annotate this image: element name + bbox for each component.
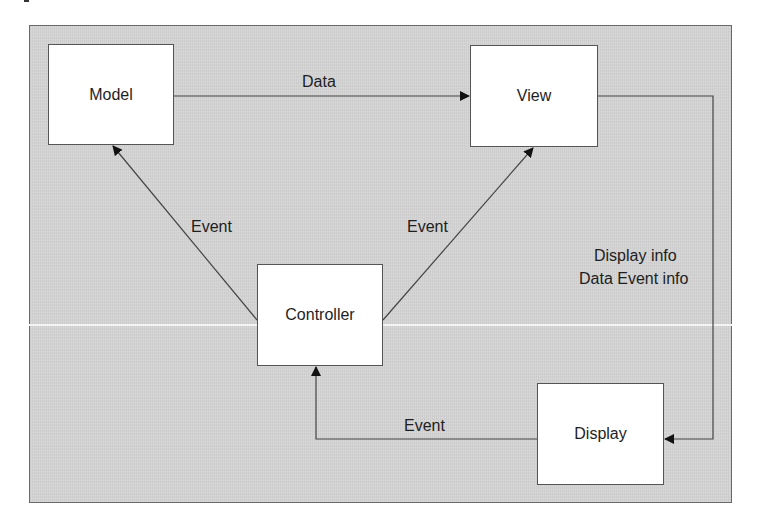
edge-label-data-event-info: Data Event info: [579, 267, 688, 290]
node-model-label: Model: [89, 86, 133, 104]
edge-label-display-info: Display info: [594, 244, 677, 267]
node-view: View: [470, 45, 598, 147]
edge-label-data: Data: [302, 70, 336, 93]
node-display-label: Display: [574, 425, 626, 443]
edge-label-event-left: Event: [191, 215, 232, 238]
node-model: Model: [48, 44, 174, 145]
node-view-label: View: [517, 87, 551, 105]
edge-controller-to-model: [113, 146, 257, 320]
node-controller-label: Controller: [285, 306, 354, 324]
node-display: Display: [537, 383, 664, 485]
node-controller: Controller: [257, 264, 383, 366]
edge-label-event-bottom: Event: [404, 414, 445, 437]
edge-controller-to-view: [383, 148, 533, 320]
edge-label-event-right: Event: [407, 215, 448, 238]
